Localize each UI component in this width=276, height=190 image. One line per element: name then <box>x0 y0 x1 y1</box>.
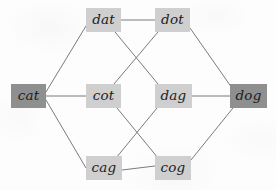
edge-cat-cag <box>46 100 86 168</box>
node-label-cot: cot <box>93 89 115 103</box>
node-label-dag: dag <box>161 89 187 103</box>
node-label-dog: dog <box>235 89 261 103</box>
node-label-dot: dot <box>161 13 184 27</box>
node-dot[interactable]: dot <box>155 8 190 32</box>
node-label-cat: cat <box>18 89 40 103</box>
edge-dot-dog <box>190 28 232 88</box>
edge-cat-dat <box>46 26 86 92</box>
node-cog[interactable]: cog <box>155 156 191 180</box>
edges-group <box>46 20 233 170</box>
node-cag[interactable]: cag <box>86 156 122 180</box>
edge-dag-cag <box>116 108 157 158</box>
node-label-cag: cag <box>92 161 117 175</box>
edge-cag-cog <box>122 166 155 170</box>
edge-cot-cog <box>117 108 158 158</box>
node-label-cog: cog <box>161 161 186 175</box>
node-dat[interactable]: dat <box>86 8 121 32</box>
node-dag[interactable]: dag <box>155 84 192 108</box>
node-cot[interactable]: cot <box>86 84 121 108</box>
edge-cog-dog <box>191 108 233 160</box>
node-cat[interactable]: cat <box>11 84 46 108</box>
node-label-dat: dat <box>92 13 115 27</box>
word-ladder-diagram: catdatdotcotdagcagcogdog <box>0 0 276 190</box>
node-dog[interactable]: dog <box>230 84 267 108</box>
